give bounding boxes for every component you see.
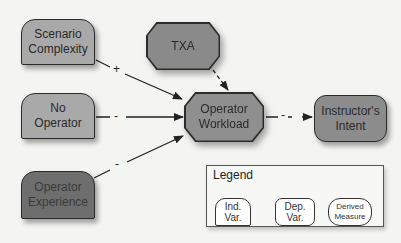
node-label: Operator <box>34 116 81 131</box>
node-operator-experience: Operator Experience <box>21 171 95 219</box>
node-operator-workload: Operator Workload <box>184 92 264 142</box>
legend-item-derived-measure: Derived Measure <box>328 198 372 226</box>
legend-label: Derived <box>334 202 365 212</box>
legend-title: Legend <box>213 168 253 182</box>
node-label: Experience <box>28 195 88 210</box>
node-label: Operator <box>28 180 88 195</box>
node-no-operator: No Operator <box>21 93 95 139</box>
node-label: Intent <box>321 119 379 134</box>
legend-label: Measure <box>334 212 365 222</box>
legend: Legend Ind. Var. Dep. Var. Derived Measu… <box>206 165 384 227</box>
node-label: Workload <box>199 117 249 132</box>
sign-minus-nooperator: - <box>114 109 118 123</box>
node-instructors-intent: Instructor's Intent <box>314 95 387 142</box>
sign-minus-experience: - <box>115 157 119 171</box>
legend-label: Dep. <box>284 201 305 212</box>
node-label: Complexity <box>28 42 87 57</box>
legend-label: Var. <box>224 212 241 223</box>
legend-item-dep-var: Dep. Var. <box>275 198 315 226</box>
node-label: Scenario <box>28 27 87 42</box>
legend-label: Var. <box>284 212 305 223</box>
node-txa: TXA <box>146 22 220 70</box>
edge-experience-to-workload <box>94 136 183 178</box>
node-label: No <box>34 101 81 116</box>
sign-minus-workload-intent: - <box>281 108 285 122</box>
node-label: Operator <box>199 102 249 117</box>
legend-item-ind-var: Ind. Var. <box>215 198 251 226</box>
node-label: TXA <box>171 39 194 54</box>
edge-txa-to-workload <box>213 70 228 90</box>
node-label: Instructor's <box>321 104 379 119</box>
legend-label: Ind. <box>224 201 241 212</box>
sign-plus-scenario: + <box>113 62 120 76</box>
node-scenario-complexity: Scenario Complexity <box>21 19 95 65</box>
